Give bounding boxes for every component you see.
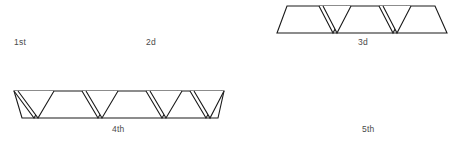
triangle-strip-lower [12,87,226,121]
strip-outline-upper [277,6,447,33]
triangle-strip-upper [275,2,451,36]
ordinal-label-3d: 3d [358,38,368,47]
figure-canvas: 1st 2d 3d 4th 5th [0,0,466,149]
ordinal-label-5th: 5th [362,125,374,134]
ordinal-label-2d: 2d [146,38,156,47]
ordinal-label-1st: 1st [14,38,26,47]
ordinal-label-4th: 4th [112,125,124,134]
